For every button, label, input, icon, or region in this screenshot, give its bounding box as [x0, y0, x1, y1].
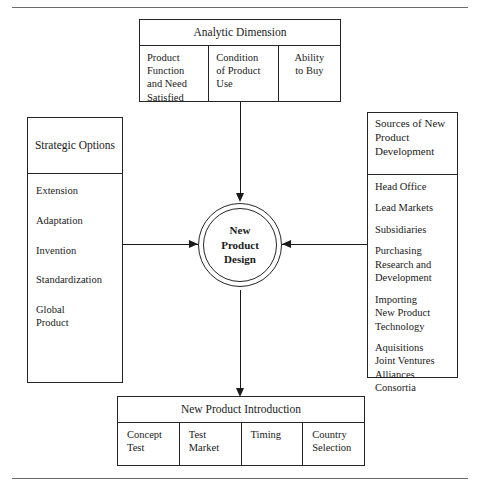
list-item: Global Product	[36, 304, 122, 330]
diagram-canvas: Analytic Dimension Product Function and …	[0, 0, 480, 493]
strategic-options-header: Strategic Options	[28, 118, 122, 174]
analytic-dimension-cell-0: Product Function and Need Satisfied	[140, 46, 209, 101]
new-product-introduction-cell-1: Test Market	[180, 423, 242, 465]
center-node-label: New Product Design	[221, 223, 259, 267]
new-product-design-node: New Product Design	[198, 203, 282, 287]
new-product-introduction-cell-3: Country Selection	[303, 423, 364, 465]
new-product-introduction-box: New Product Introduction Concept Test Te…	[117, 396, 365, 466]
arrow-shaft	[240, 290, 241, 390]
new-product-introduction-cell-0: Concept Test	[118, 423, 180, 465]
list-item: Standardization	[36, 274, 122, 287]
analytic-dimension-box: Analytic Dimension Product Function and …	[139, 19, 341, 102]
arrow-shaft	[123, 244, 198, 245]
arrow-shaft	[240, 102, 241, 195]
analytic-dimension-cells: Product Function and Need Satisfied Cond…	[140, 46, 340, 101]
arrow-head	[189, 240, 198, 248]
sources-of-new-product-development-box: Sources of New Product Development Head …	[367, 112, 458, 378]
page-rule-top	[12, 7, 468, 8]
analytic-dimension-cell-2: Ability to Buy	[279, 46, 340, 101]
list-item: Purchasing Research and Development	[375, 244, 457, 284]
analytic-dimension-cell-1: Condition of Product Use	[209, 46, 278, 101]
sources-list: Head Office Lead Markets Subsidiaries Pu…	[368, 175, 457, 395]
new-product-introduction-header: New Product Introduction	[118, 397, 364, 423]
list-item: Subsidiaries	[375, 223, 457, 236]
list-item: Head Office	[375, 180, 457, 193]
strategic-options-box: Strategic Options Extension Adaptation I…	[27, 117, 123, 383]
arrow-shaft	[282, 244, 367, 245]
new-product-introduction-cell-2: Timing	[242, 423, 304, 465]
analytic-dimension-header: Analytic Dimension	[140, 20, 340, 46]
list-item: Invention	[36, 245, 122, 258]
inner-ring: New Product Design	[203, 208, 277, 282]
new-product-introduction-cells: Concept Test Test Market Timing Country …	[118, 423, 364, 465]
list-item: Extension	[36, 185, 122, 198]
list-item: Aquisitions Joint Ventures Alliances Con…	[375, 341, 457, 395]
arrow-head	[282, 240, 291, 248]
list-item: Lead Markets	[375, 201, 457, 214]
page-rule-bottom	[12, 478, 468, 479]
list-item: Adaptation	[36, 215, 122, 228]
sources-header: Sources of New Product Development	[368, 113, 457, 175]
arrow-head	[236, 388, 244, 397]
arrow-head	[236, 193, 244, 202]
list-item: Importing New Product Technology	[375, 293, 457, 333]
strategic-options-list: Extension Adaptation Invention Standardi…	[28, 174, 122, 330]
